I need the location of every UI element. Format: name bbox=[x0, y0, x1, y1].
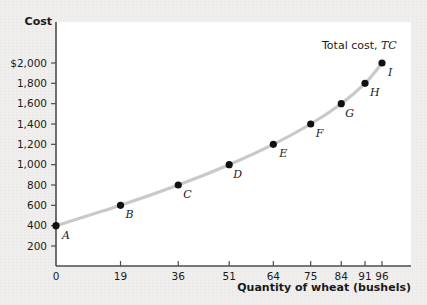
data-point-label-c: C bbox=[183, 188, 192, 201]
data-point-label-h: H bbox=[369, 86, 380, 99]
total-cost-chart: 2004006008001,0001,2001,4001,6001,800$2,… bbox=[0, 0, 427, 305]
data-point-i[interactable] bbox=[378, 59, 385, 66]
y-axis-tick-label: 1,000 bbox=[17, 158, 47, 170]
data-point-b[interactable] bbox=[117, 202, 124, 209]
y-axis-tick-label: 200 bbox=[27, 240, 47, 252]
x-axis-tick-label: 19 bbox=[114, 270, 127, 282]
total-cost-curve bbox=[56, 63, 382, 226]
y-axis-tick-label: 400 bbox=[27, 219, 47, 231]
data-point-label-i: I bbox=[387, 66, 393, 79]
series-label-symbol: TC bbox=[381, 39, 397, 52]
y-axis-tick-label: 800 bbox=[27, 179, 47, 191]
data-point-label-g: G bbox=[345, 107, 354, 120]
data-point-label-a: A bbox=[61, 229, 70, 242]
series-label-text: Total cost, bbox=[321, 39, 381, 52]
series-label: Total cost, TC bbox=[321, 39, 397, 52]
y-axis-tick-label: $2,000 bbox=[10, 57, 47, 69]
x-axis-tick-label: 0 bbox=[53, 270, 60, 282]
data-point-c[interactable] bbox=[175, 181, 182, 188]
data-point-f[interactable] bbox=[307, 120, 314, 127]
data-point-g[interactable] bbox=[338, 100, 345, 107]
data-point-a[interactable] bbox=[52, 222, 59, 229]
y-axis-tick-label: 600 bbox=[27, 199, 47, 211]
y-axis-tick-label: 1,600 bbox=[17, 97, 47, 109]
y-axis-tick-label: 1,800 bbox=[17, 77, 47, 89]
y-axis-tick-label: 1,200 bbox=[17, 138, 47, 150]
data-point-h[interactable] bbox=[361, 80, 368, 87]
data-point-label-b: B bbox=[125, 208, 134, 221]
x-axis-tick-label: 51 bbox=[223, 270, 236, 282]
data-point-d[interactable] bbox=[226, 161, 233, 168]
data-point-label-e: E bbox=[278, 147, 287, 160]
data-point-label-d: D bbox=[232, 168, 242, 181]
y-axis-title: Cost bbox=[25, 15, 52, 28]
y-axis-tick-label: 1,400 bbox=[17, 118, 47, 130]
x-axis-tick-label: 36 bbox=[172, 270, 186, 282]
data-point-e[interactable] bbox=[270, 141, 277, 148]
x-axis-title: Quantity of wheat (bushels) bbox=[237, 281, 411, 294]
data-point-label-f: F bbox=[315, 127, 324, 140]
